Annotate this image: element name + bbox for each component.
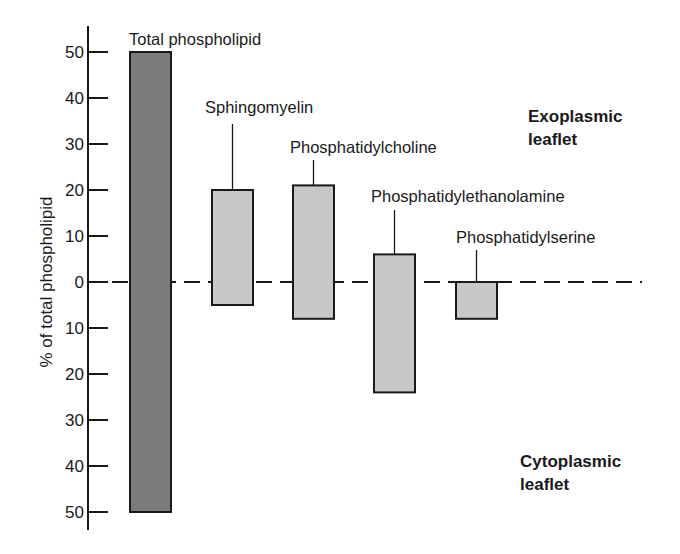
bar-label: Phosphatidylethanolamine — [371, 187, 565, 205]
y-tick-label: 30 — [65, 135, 84, 154]
bar-rect — [456, 282, 497, 319]
y-axis-title: % of total phospholipid — [37, 196, 56, 367]
bar-label: Phosphatidylserine — [456, 228, 595, 246]
phospholipid-distribution-chart: 504030201001020304050 % of total phospho… — [0, 0, 680, 554]
bar-rect — [212, 190, 253, 305]
y-tick-label: 10 — [65, 227, 84, 246]
y-tick-label: 0 — [75, 273, 84, 292]
y-tick-label: 40 — [65, 457, 84, 476]
cytoplasmic-label-line2: leaflet — [520, 475, 569, 494]
bar-label: Total phospholipid — [129, 30, 261, 48]
bar-label: Sphingomyelin — [205, 98, 313, 116]
bars-group: Total phospholipidSphingomyelinPhosphati… — [129, 30, 595, 512]
cytoplasmic-label-line1: Cytoplasmic — [520, 452, 621, 471]
bar-rect — [130, 52, 171, 512]
y-tick-label: 50 — [65, 43, 84, 62]
exoplasmic-label-line1: Exoplasmic — [528, 107, 623, 126]
y-tick-label: 50 — [65, 503, 84, 522]
y-tick-label: 20 — [65, 365, 84, 384]
exoplasmic-label-line2: leaflet — [528, 130, 577, 149]
bar-label: Phosphatidylcholine — [290, 138, 437, 156]
y-tick-label: 40 — [65, 89, 84, 108]
y-tick-label: 30 — [65, 411, 84, 430]
bar-rect — [293, 185, 334, 318]
y-tick-label: 10 — [65, 319, 84, 338]
bar-rect — [374, 254, 415, 392]
bar-phosphatidylserine: Phosphatidylserine — [456, 228, 595, 319]
y-tick-label: 20 — [65, 181, 84, 200]
